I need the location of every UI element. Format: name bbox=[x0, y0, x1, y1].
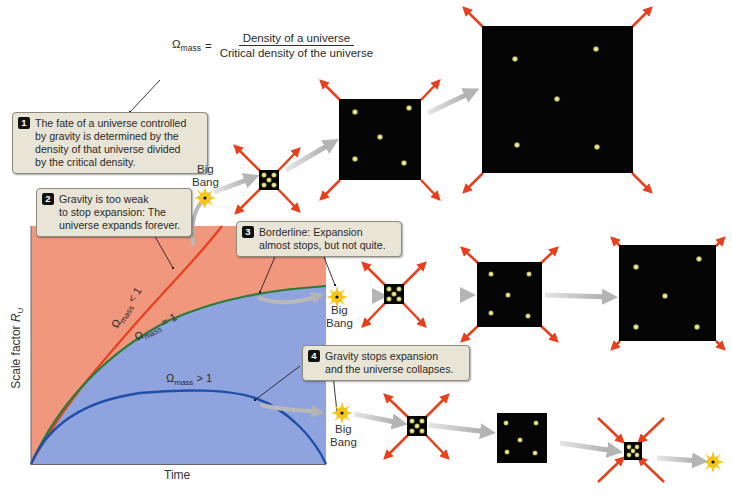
omega-formula: Ωmass = Density of a universe Critical d… bbox=[172, 32, 377, 59]
big-bang-label: BigBang bbox=[330, 423, 357, 449]
big-bang-icon bbox=[331, 402, 353, 424]
numerator: Density of a universe bbox=[239, 32, 354, 46]
step-number-badge: 1 bbox=[18, 117, 30, 129]
callout-3: 3 Borderline: Expansion almost stops, bu… bbox=[236, 221, 402, 257]
callout-1: 1 The fate of a universe controlled by g… bbox=[12, 112, 208, 174]
omega-symbol: Ωmass bbox=[172, 38, 201, 53]
equals-sign: = bbox=[205, 40, 212, 52]
scale-factor-graph bbox=[31, 226, 326, 465]
step-number-badge: 3 bbox=[242, 226, 254, 238]
big-bang-label: BigBang bbox=[192, 163, 219, 189]
universe-small-maximum bbox=[497, 413, 547, 463]
step-number-badge: 2 bbox=[42, 193, 54, 205]
fraction: Density of a universe Critical density o… bbox=[216, 32, 377, 59]
callout-2: 2 Gravity is too weak to stop expansion:… bbox=[36, 188, 192, 237]
universe-medium-expanding bbox=[613, 239, 723, 348]
denominator: Critical density of the universe bbox=[216, 46, 377, 59]
y-axis-label: Scale factor RU bbox=[9, 293, 25, 403]
callout-4: 4 Gravity stops expansion and the univer… bbox=[302, 345, 470, 381]
big-bang-label: BigBang bbox=[326, 304, 353, 330]
universe-medium-expanding bbox=[322, 82, 438, 198]
big-bang-icon bbox=[194, 187, 216, 209]
step-number-badge: 4 bbox=[308, 350, 320, 362]
universe-large-expanding bbox=[465, 9, 650, 191]
x-axis-label: Time bbox=[164, 468, 190, 482]
big-crunch-icon bbox=[702, 451, 724, 473]
universe-small-expanding bbox=[463, 249, 556, 340]
